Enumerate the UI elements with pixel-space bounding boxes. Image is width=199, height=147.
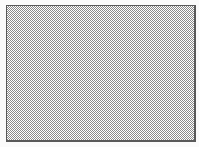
- canvas-background: [0, 0, 199, 147]
- dithered-pattern-panel: [6, 5, 196, 142]
